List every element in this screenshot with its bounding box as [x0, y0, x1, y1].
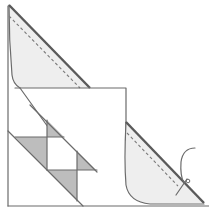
- center-square-flap: [15, 88, 126, 140]
- center-flap-diagonal: [20, 88, 48, 127]
- pin-head-icon: [186, 179, 190, 183]
- thread-curve: [181, 148, 195, 183]
- block-triangle-top: [47, 120, 64, 137]
- block-triangle-right: [77, 151, 96, 170]
- folding-diagram: [0, 0, 209, 211]
